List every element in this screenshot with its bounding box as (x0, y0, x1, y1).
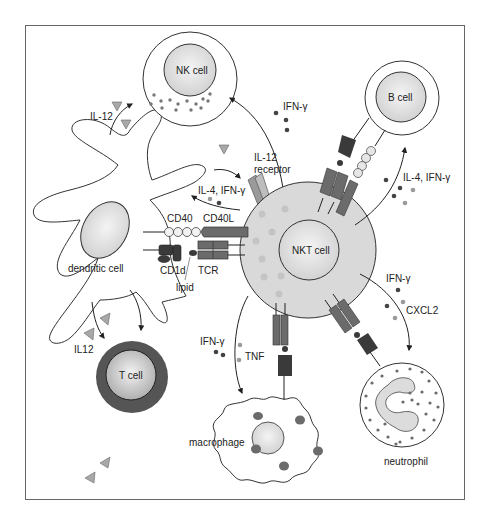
cd40l-bar (202, 227, 249, 237)
t-cell: T cell (96, 341, 168, 413)
ifn-macrophage-label: IFN-γ (200, 336, 224, 347)
neutrophil-label: neutrophil (384, 456, 428, 467)
il12-receptor-label-2: receptor (254, 164, 291, 175)
macrophage-label: macrophage (189, 437, 245, 448)
ifn-neutrophil-label: IFN-γ (386, 273, 410, 284)
nkt-cell: NKT cell (240, 182, 376, 318)
tnf-label: TNF (245, 351, 264, 362)
cd1d-label: CD1d (160, 265, 186, 276)
cxcl2-label: CXCL2 (406, 305, 439, 316)
il4-ifn-left-label: IL-4, IFN-γ (198, 185, 245, 196)
nkt-cell-diagram: dendritic cell NK cell IL-12 IFN-γ IL-12… (0, 0, 480, 524)
lipid-label: lipid (176, 282, 194, 293)
cd40l-label: CD40L (203, 213, 235, 224)
il4-ifn-right-label: IL-4, IFN-γ (403, 172, 450, 183)
lipid (189, 250, 197, 256)
b-cell: B cell (365, 61, 439, 135)
tcr-label: TCR (198, 265, 219, 276)
nkt-cell-label: NKT cell (292, 245, 330, 256)
cd1d-complex (158, 245, 181, 263)
il12-receptor-label-1: IL-12 (254, 152, 277, 163)
neutrophil (360, 363, 444, 447)
nk-cell: NK cell (143, 32, 237, 126)
t-cell-label: T cell (119, 370, 143, 381)
il12-bottom-label: IL12 (74, 344, 94, 355)
b-cell-label: B cell (388, 92, 412, 103)
il12-label-top: IL-12 (90, 111, 113, 122)
cd40-label: CD40 (167, 213, 193, 224)
dendritic-cell-label: dendritic cell (68, 263, 124, 274)
ifn-label-top: IFN-γ (283, 101, 307, 112)
nk-cell-label: NK cell (176, 65, 208, 76)
